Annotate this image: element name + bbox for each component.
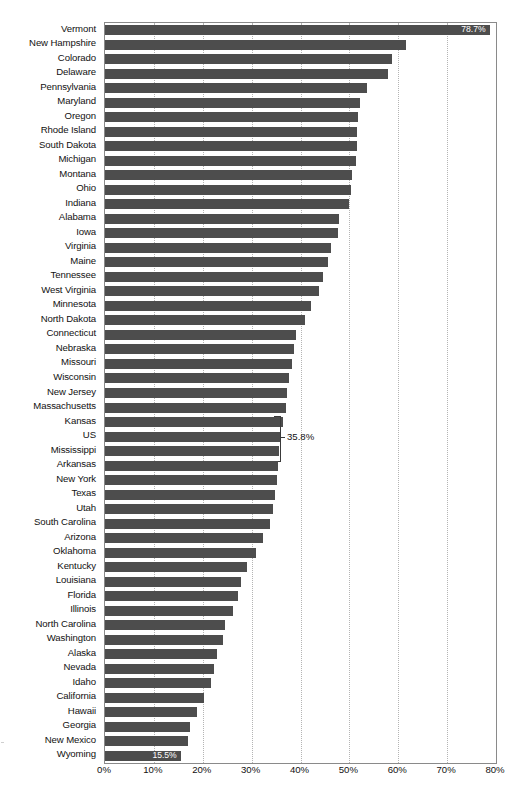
bar[interactable] (105, 475, 277, 485)
category-label: New Hampshire (0, 38, 96, 48)
category-label: Missouri (0, 357, 96, 367)
bar[interactable] (105, 388, 287, 398)
category-label: Nevada (0, 662, 96, 672)
bar[interactable] (105, 504, 273, 514)
category-label: Kansas (0, 416, 96, 426)
gridline-60 (398, 23, 399, 763)
bar-value-label: 78.7% (461, 24, 485, 35)
bar[interactable] (105, 199, 349, 209)
bar[interactable] (105, 344, 294, 354)
category-label: Wyoming (0, 749, 96, 759)
category-label: New Mexico (0, 735, 96, 745)
bar[interactable] (105, 519, 270, 529)
x-tick-label: 10% (143, 764, 162, 776)
x-axis: 0%10%20%30%40%50%60%70%80% (104, 764, 495, 784)
bar[interactable] (105, 635, 223, 645)
bar[interactable] (105, 156, 356, 166)
category-label: South Carolina (0, 517, 96, 527)
bar[interactable]: 78.7% (105, 25, 490, 35)
bar[interactable] (105, 606, 233, 616)
bar-chart: VermontNew HampshireColoradoDelawarePenn… (0, 0, 520, 799)
bar[interactable] (105, 446, 279, 456)
bar[interactable] (105, 315, 305, 325)
bar[interactable] (105, 417, 283, 427)
x-tick-label: 80% (485, 764, 504, 776)
bar[interactable] (105, 257, 328, 267)
category-label: North Dakota (0, 314, 96, 324)
x-tick-label: 60% (388, 764, 407, 776)
bar[interactable] (105, 562, 247, 572)
category-label: California (0, 691, 96, 701)
bar[interactable] (105, 286, 319, 296)
x-tick-label: 0% (97, 764, 111, 776)
bar[interactable] (105, 736, 188, 746)
x-tick-label: 70% (437, 764, 456, 776)
category-label-column: VermontNew HampshireColoradoDelawarePenn… (0, 22, 100, 762)
bar[interactable] (105, 127, 357, 137)
category-label: Maryland (0, 96, 96, 106)
category-label: Alaska (0, 648, 96, 658)
bar[interactable] (105, 98, 360, 108)
bar[interactable] (105, 112, 358, 122)
x-tick-label: 50% (339, 764, 358, 776)
bar[interactable] (105, 330, 296, 340)
bar[interactable] (105, 141, 357, 151)
bar[interactable] (105, 170, 352, 180)
bar[interactable] (105, 548, 256, 558)
category-label: Virginia (0, 241, 96, 251)
edge-artefact-mark (1, 742, 4, 743)
bar[interactable] (105, 678, 211, 688)
bar[interactable] (105, 620, 225, 630)
bar[interactable] (105, 243, 331, 253)
bar[interactable] (105, 461, 278, 471)
category-label: Arizona (0, 532, 96, 542)
bar[interactable] (105, 707, 197, 717)
bar[interactable] (105, 228, 338, 238)
bar[interactable] (105, 185, 351, 195)
bar[interactable] (105, 649, 217, 659)
category-label: Washington (0, 633, 96, 643)
bar[interactable] (105, 272, 323, 282)
bar[interactable] (105, 403, 286, 413)
category-label: Rhode Island (0, 125, 96, 135)
bar[interactable] (105, 533, 263, 543)
value-callout-tick (281, 437, 285, 438)
category-label: Arkansas (0, 459, 96, 469)
bar[interactable] (105, 83, 367, 93)
category-label: Georgia (0, 720, 96, 730)
category-label: Oregon (0, 111, 96, 121)
category-label: Nebraska (0, 343, 96, 353)
category-label: Pennsylvania (0, 82, 96, 92)
bar[interactable] (105, 664, 214, 674)
category-label: Maine (0, 256, 96, 266)
category-label: Iowa (0, 227, 96, 237)
bar[interactable] (105, 373, 289, 383)
bar[interactable] (105, 214, 339, 224)
category-label: Idaho (0, 677, 96, 687)
x-tick-label: 40% (290, 764, 309, 776)
bar[interactable] (105, 490, 275, 500)
category-label: North Carolina (0, 619, 96, 629)
bar[interactable] (105, 591, 238, 601)
category-label: Kentucky (0, 561, 96, 571)
category-label: Connecticut (0, 328, 96, 338)
bar[interactable] (105, 693, 204, 703)
bar[interactable] (105, 301, 311, 311)
bar[interactable] (105, 359, 292, 369)
category-label: Colorado (0, 53, 96, 63)
bar[interactable] (105, 432, 280, 442)
category-label: Delaware (0, 67, 96, 77)
category-label: Florida (0, 590, 96, 600)
x-tick-label: 20% (192, 764, 211, 776)
category-label: US (0, 430, 96, 440)
bar[interactable] (105, 40, 406, 50)
category-label: Ohio (0, 183, 96, 193)
bar[interactable]: 15.5% (105, 751, 181, 761)
bar-value-label: 35.8% (287, 431, 314, 442)
bar[interactable] (105, 69, 388, 79)
bar[interactable] (105, 577, 241, 587)
category-label: Oklahoma (0, 546, 96, 556)
bar[interactable] (105, 722, 190, 732)
bar[interactable] (105, 54, 392, 64)
category-label: Tennessee (0, 270, 96, 280)
